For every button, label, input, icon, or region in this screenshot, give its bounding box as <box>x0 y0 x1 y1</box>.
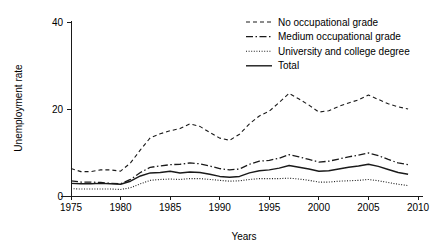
x-tick-label: 1980 <box>109 202 132 213</box>
y-tick-label: 40 <box>52 17 64 28</box>
x-tick-label: 1990 <box>209 202 232 213</box>
x-tick-label: 2005 <box>357 202 380 213</box>
y-axis: 02040 <box>52 17 71 202</box>
x-tick-label: 2000 <box>308 202 331 213</box>
series-lines <box>71 93 408 189</box>
unemployment-rate-chart: 02040 19751980198519901995200020052010 N… <box>0 0 447 247</box>
x-tick-label: 1985 <box>159 202 182 213</box>
x-axis: 19751980198519901995200020052010 <box>60 196 430 213</box>
chart-legend: No occupational gradeMedium occupational… <box>246 17 410 72</box>
y-tick-label: 20 <box>52 104 64 115</box>
legend-label-0: No occupational grade <box>278 17 379 28</box>
y-axis-title: Unemployment rate <box>13 64 24 152</box>
series-line-3 <box>71 164 408 184</box>
chart-canvas: 02040 19751980198519901995200020052010 N… <box>0 0 447 247</box>
series-line-1 <box>71 153 408 184</box>
legend-label-3: Total <box>278 60 299 71</box>
series-line-0 <box>71 93 408 171</box>
x-axis-title: Years <box>231 231 256 242</box>
x-tick-label: 1995 <box>258 202 281 213</box>
legend-label-1: Medium occupational grade <box>278 31 401 42</box>
x-tick-label: 2010 <box>407 202 430 213</box>
legend-label-2: University and college degree <box>278 46 410 57</box>
x-tick-label: 1975 <box>60 202 83 213</box>
